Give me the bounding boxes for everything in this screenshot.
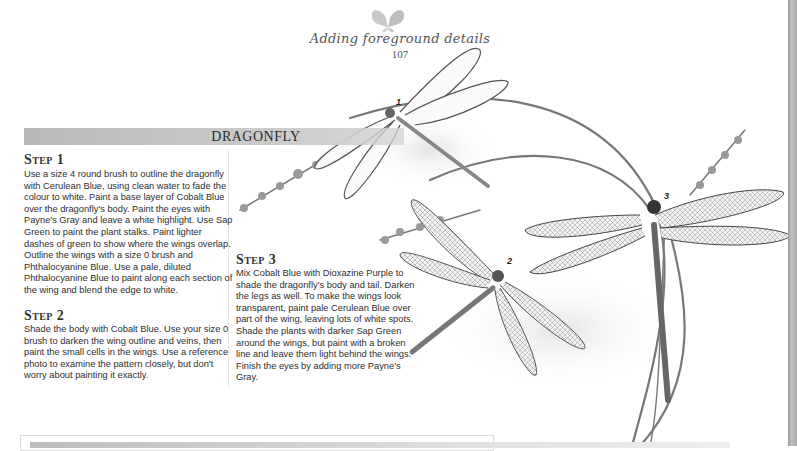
- step-1-heading: Step 1: [24, 152, 64, 168]
- paint-wash: [440, 270, 680, 390]
- adjacent-page-edge: [788, 0, 797, 446]
- step-3-heading: Step 3: [236, 252, 276, 268]
- bottom-banner: [30, 442, 730, 448]
- step-2-text: Shade the body with Cobalt Blue. Use you…: [24, 324, 234, 382]
- section-title: DRAGONFLY: [186, 128, 326, 145]
- chapter-title: Adding foreground details: [300, 31, 500, 46]
- dragonfly-2: [400, 200, 585, 376]
- page-number: 107: [370, 48, 430, 60]
- dragonfly-1: [315, 48, 508, 198]
- step-3-text: Mix Cobalt Blue with Dioxazine Purple to…: [236, 268, 416, 384]
- flower-buds: [240, 136, 742, 244]
- callout-marker-3: 3: [664, 191, 669, 201]
- step-1-text: Use a size 4 round brush to outline the …: [24, 169, 234, 297]
- paint-wash: [360, 110, 500, 190]
- callout-marker-1: 1: [396, 97, 401, 107]
- callout-marker-2: 2: [507, 256, 512, 266]
- dragonfly-3: [525, 190, 790, 400]
- butterfly-icon: [369, 6, 407, 32]
- step-2-heading: Step 2: [24, 308, 64, 324]
